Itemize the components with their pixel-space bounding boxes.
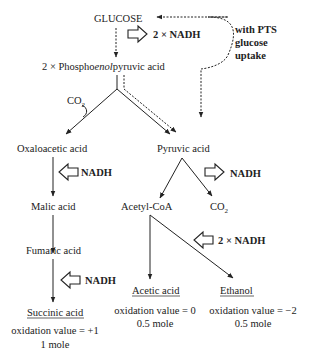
cofactor-ethanol-nadh: 2 × NADH (218, 235, 265, 246)
cofactor-pyruvate-nadh: NADH (230, 168, 261, 179)
hollow-arrow-left-icon (59, 164, 78, 180)
node-acetyl-coa: Acetyl-CoA (121, 201, 173, 212)
node-glucose: GLUCOSE (94, 13, 142, 24)
node-pyruvic-acid: Pyruvic acid (157, 143, 211, 154)
hollow-arrow-left-icon-3 (61, 272, 80, 288)
pts-dashed-loop (201, 17, 234, 117)
cofactor-glycolysis-nadh: 2 × NADH (153, 29, 200, 40)
succinic-oxidation-value: oxidation value = +1 (11, 325, 98, 336)
node-oxaloacetic-acid: Oxaloacetic acid (17, 143, 88, 154)
dashed-pep-to-pyruvic (124, 75, 176, 132)
pts-note-line-1: with PTS (235, 24, 277, 35)
hollow-arrow-left-icon-2 (194, 232, 213, 248)
cofactor-succinate-nadh: NADH (85, 275, 116, 286)
cofactor-malate-nadh: NADH (81, 167, 112, 178)
arrow-pyruvic-to-co2 (182, 158, 212, 196)
product-acetic-acid: Acetic acid (132, 285, 180, 296)
arrow-pyruvic-to-acetylcoa (160, 158, 182, 198)
pts-note-line-2: glucose (235, 37, 268, 48)
co2-input-label: CO2 (67, 95, 86, 109)
fermentation-pathway-diagram: GLUCOSE 2 × NADH with PTS glucose uptake… (0, 0, 315, 361)
arrow-pep-to-pyruvic (117, 89, 170, 134)
node-malic-acid: Malic acid (31, 201, 76, 212)
product-ethanol: Ethanol (220, 285, 253, 296)
hollow-arrow-right-icon (128, 26, 147, 42)
product-succinic-acid: Succinic acid (27, 307, 84, 318)
ethanol-oxidation-value: oxidation value = −2 (209, 305, 296, 316)
node-fumaric-acid: Fumaric acid (26, 245, 82, 256)
succinic-moles: 1 mole (41, 339, 70, 350)
arrow-acetylcoa-to-ethanol (150, 215, 233, 278)
acetic-oxidation-value: oxidation value = 0 (114, 305, 195, 316)
pts-note-line-3: uptake (235, 50, 266, 61)
ethanol-moles: 0.5 mole (235, 318, 272, 329)
co2-output-label: CO2 (210, 201, 229, 215)
node-phosphoenolpyruvic-acid: 2 × Phosphoenolpyruvic acid (42, 61, 166, 72)
hollow-arrow-right-icon-2 (205, 164, 224, 180)
acetic-moles: 0.5 mole (137, 318, 174, 329)
